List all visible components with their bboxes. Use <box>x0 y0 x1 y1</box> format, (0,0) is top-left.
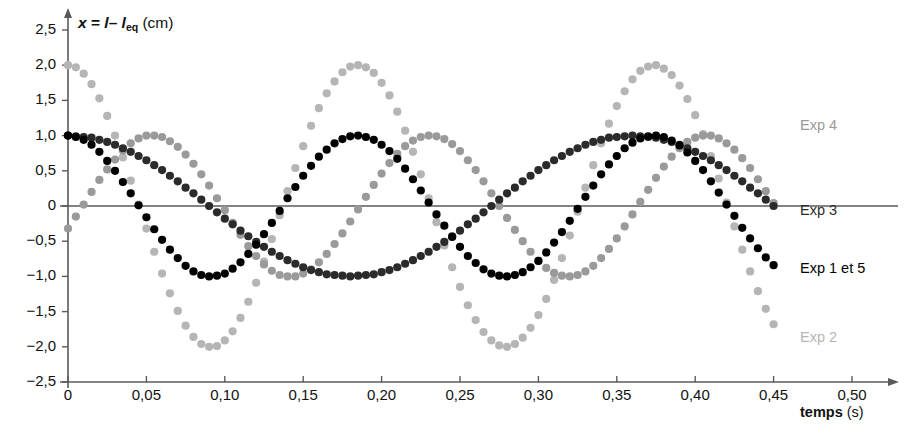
legend-item-exp-1-et-5: Exp 1 et 5 <box>800 260 865 276</box>
data-point <box>526 324 534 332</box>
data-point <box>762 187 770 195</box>
data-point <box>652 132 660 140</box>
data-point <box>64 224 72 232</box>
data-point <box>229 220 237 228</box>
data-point <box>64 61 72 69</box>
data-point <box>597 170 605 178</box>
data-point <box>448 140 456 148</box>
data-point <box>558 228 566 236</box>
data-point <box>299 263 307 271</box>
data-point <box>150 132 158 140</box>
data-point <box>636 198 644 206</box>
data-point <box>621 87 629 95</box>
data-point <box>127 139 135 147</box>
data-point <box>464 220 472 228</box>
data-point <box>581 184 589 192</box>
data-point <box>683 148 691 156</box>
data-point <box>417 252 425 260</box>
data-point <box>448 263 456 271</box>
x-tick-label: 0,40 <box>655 386 735 403</box>
data-point <box>503 189 511 197</box>
data-point <box>299 172 307 180</box>
y-tick-label: 0 <box>0 196 56 213</box>
data-point <box>72 63 80 71</box>
data-point <box>252 252 260 260</box>
data-point <box>495 272 503 280</box>
data-point <box>174 143 182 151</box>
data-point <box>456 283 464 291</box>
x-tick-label: 0,15 <box>263 386 343 403</box>
data-point <box>142 213 150 221</box>
data-point <box>72 133 80 141</box>
data-point <box>738 246 746 254</box>
data-point <box>628 132 636 140</box>
data-point <box>464 252 472 260</box>
data-point <box>213 208 221 216</box>
data-point <box>166 172 174 180</box>
data-point <box>338 135 346 143</box>
data-point <box>691 134 699 142</box>
data-point <box>166 246 174 254</box>
data-point <box>142 156 150 164</box>
data-point <box>770 261 778 269</box>
data-point <box>87 188 95 196</box>
data-point <box>621 222 629 230</box>
data-point <box>519 177 527 185</box>
data-point <box>762 196 770 204</box>
data-point <box>738 177 746 185</box>
data-point <box>691 148 699 156</box>
data-point <box>119 153 127 161</box>
data-point <box>628 210 636 218</box>
data-point <box>244 242 252 250</box>
data-point <box>182 184 190 192</box>
data-point <box>134 134 142 142</box>
data-point <box>276 207 284 215</box>
data-point <box>762 305 770 313</box>
data-point <box>323 89 331 97</box>
data-point <box>589 138 597 146</box>
data-point <box>722 139 730 147</box>
data-point <box>174 177 182 185</box>
data-point <box>103 112 111 120</box>
data-point <box>558 272 566 280</box>
data-point <box>542 161 550 169</box>
data-point <box>699 166 707 174</box>
data-point <box>456 227 464 235</box>
data-point <box>338 68 346 76</box>
data-point <box>738 224 746 232</box>
data-point <box>503 214 511 222</box>
data-point <box>158 166 166 174</box>
x-tick-label: 0,20 <box>342 386 422 403</box>
data-point <box>213 194 221 202</box>
data-point <box>315 268 323 276</box>
y-tick-label: 2,0 <box>0 55 56 72</box>
y-tick-label: 1,5 <box>0 90 56 107</box>
x-tick-label: 0 <box>28 386 108 403</box>
data-point <box>127 148 135 156</box>
data-point <box>479 177 487 185</box>
data-point <box>197 196 205 204</box>
data-point <box>534 166 542 174</box>
data-point <box>362 63 370 71</box>
data-point <box>668 71 676 79</box>
data-point <box>558 152 566 160</box>
data-point <box>307 122 315 130</box>
data-point <box>315 153 323 161</box>
data-point <box>409 175 417 183</box>
data-point <box>111 155 119 163</box>
data-point <box>401 260 409 268</box>
data-point <box>707 132 715 140</box>
data-point <box>534 257 542 265</box>
data-point <box>566 148 574 156</box>
data-point <box>464 301 472 309</box>
data-point <box>134 201 142 209</box>
data-point <box>621 132 629 140</box>
data-point <box>754 244 762 252</box>
y-tick-label: −0,5 <box>0 231 56 248</box>
x-axis-title-main: temps <box>800 404 843 420</box>
data-point <box>440 222 448 230</box>
data-point <box>660 162 668 170</box>
data-point <box>299 142 307 150</box>
data-point <box>589 181 597 189</box>
data-point <box>738 154 746 162</box>
